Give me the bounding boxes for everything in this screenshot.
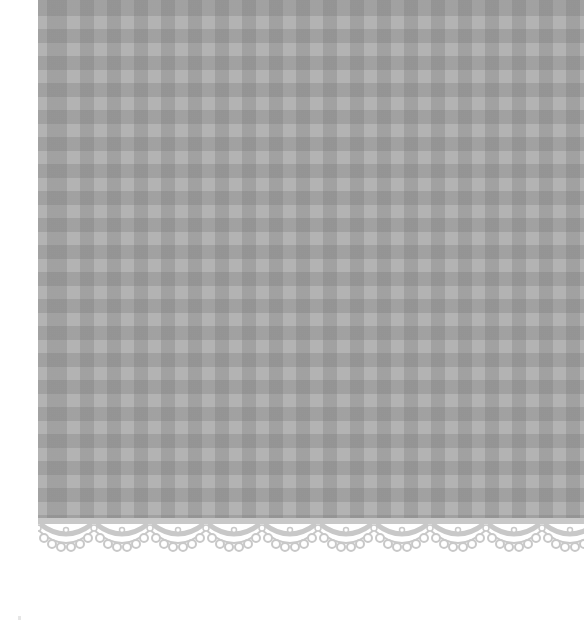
lace-trim — [38, 510, 584, 560]
gingham-fabric — [38, 0, 584, 522]
dust-speck — [18, 616, 21, 620]
